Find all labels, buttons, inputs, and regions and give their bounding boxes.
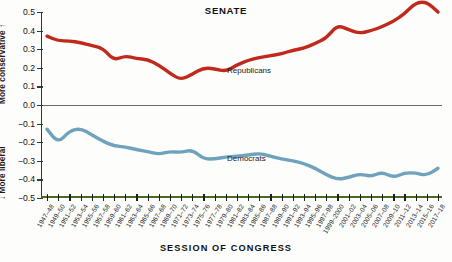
x-tick-labels: 1947–481949–501951–521953–541955–561957–… bbox=[41, 198, 442, 246]
y-axis-label-liberal: ↓ More liberal bbox=[0, 0, 7, 200]
series-label-republicans: Republicans bbox=[227, 66, 271, 75]
y-tick-label: −0.5 bbox=[18, 193, 35, 203]
senate-ideology-chart: SENATE More conservative ↑ ↓ More libera… bbox=[0, 0, 452, 262]
plot-area: 0.50.40.30.20.10.0−0.1−0.2−0.3−0.4−0.5 R… bbox=[41, 12, 442, 198]
y-tick-label: −0.4 bbox=[18, 174, 35, 184]
y-tick-label: 0.0 bbox=[23, 100, 35, 110]
y-tick-label: −0.2 bbox=[18, 137, 35, 147]
y-tick-label: 0.5 bbox=[23, 7, 35, 17]
y-tick-label: 0.1 bbox=[23, 81, 35, 91]
y-tick-label: −0.3 bbox=[18, 156, 35, 166]
y-axis-liberal-text: More liberal bbox=[0, 146, 7, 193]
series-lines bbox=[41, 12, 442, 198]
y-tick-label: −0.1 bbox=[18, 119, 35, 129]
y-tick-label: 0.3 bbox=[23, 44, 35, 54]
y-tick-label: 0.4 bbox=[23, 26, 35, 36]
down-arrow-icon: ↓ bbox=[0, 196, 7, 200]
series-label-democrats: Democrats bbox=[227, 154, 266, 163]
y-tick-label: 0.2 bbox=[23, 63, 35, 73]
x-axis-title: SESSION OF CONGRESS bbox=[0, 243, 452, 253]
